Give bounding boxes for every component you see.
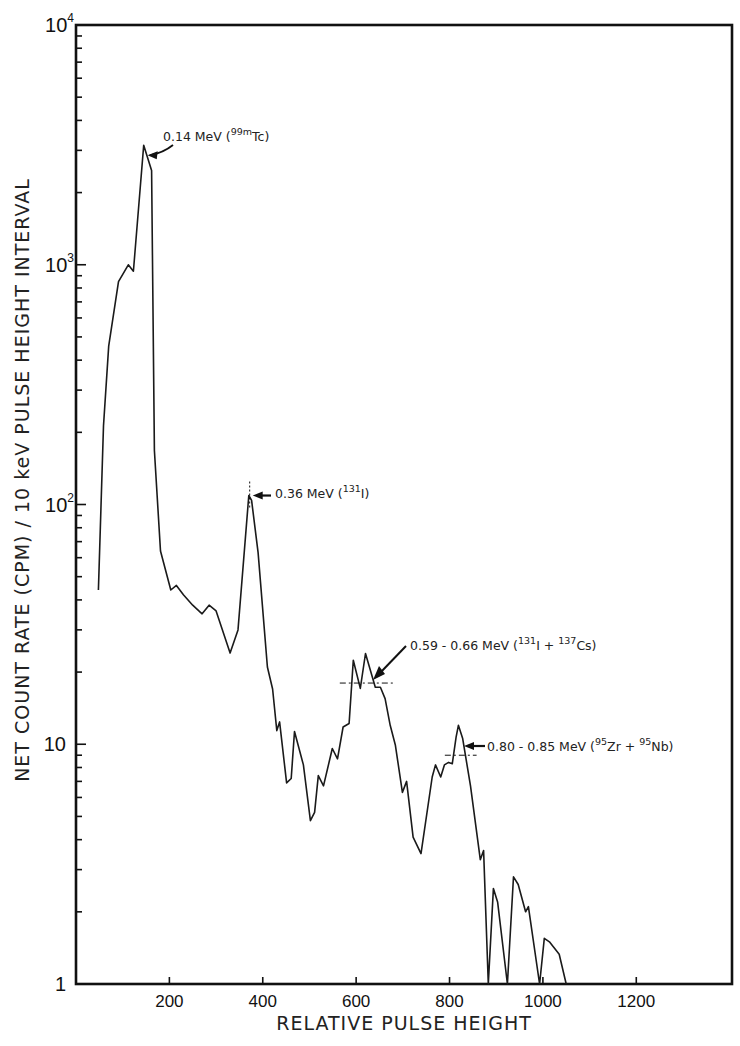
- x-tick-label: 800: [435, 992, 463, 1011]
- arrow-icon: [253, 492, 263, 500]
- gamma-spectrum-chart: 110102103104 20040060080010001200 0.14 M…: [0, 0, 740, 1046]
- x-tick-label: 400: [249, 992, 277, 1011]
- peak-label: 0.59 - 0.66 MeV (131I + 137Cs): [410, 635, 597, 653]
- x-tick-label: 1000: [524, 992, 562, 1011]
- spectrum-line: [98, 145, 566, 984]
- arrow-icon: [373, 666, 385, 680]
- x-axis: 20040060080010001200: [155, 977, 655, 1011]
- arrow-icon: [464, 742, 474, 750]
- x-tick-label: 600: [342, 992, 370, 1011]
- y-tick-label: 1: [55, 973, 66, 995]
- x-tick-label: 200: [155, 992, 183, 1011]
- y-tick-label: 10: [44, 733, 66, 755]
- y-axis-title: NET COUNT RATE (CPM) / 10 keV PULSE HEIG…: [11, 178, 33, 782]
- peak-annotations: 0.14 MeV (99mTc)0.36 MeV (131I)0.59 - 0.…: [148, 126, 674, 755]
- plot-frame: [76, 25, 732, 984]
- peak-label: 0.80 - 0.85 MeV (95Zr + 95Nb): [487, 736, 673, 754]
- y-axis: 110102103104: [44, 11, 86, 995]
- y-tick-label: 104: [45, 11, 74, 36]
- peak-label: 0.36 MeV (131I): [275, 483, 369, 501]
- x-axis-title: RELATIVE PULSE HEIGHT: [276, 1012, 532, 1034]
- y-tick-label: 103: [45, 251, 74, 276]
- x-tick-label: 1200: [617, 992, 655, 1011]
- peak-label: 0.14 MeV (99mTc): [163, 126, 269, 144]
- y-tick-label: 102: [45, 491, 74, 516]
